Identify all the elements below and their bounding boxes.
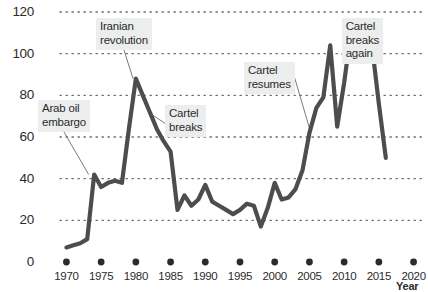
y-axis-tick-label: 100: [0, 47, 34, 61]
annotation-iranian-revolution: Iranian revolution: [96, 18, 152, 50]
annotation-cartel-breaks: Cartel breaks: [165, 105, 206, 137]
annotation-cartel-breaks-again: Cartel breaks again: [342, 18, 383, 64]
x-axis-title: Year: [396, 281, 418, 292]
annotation-cartel-resumes: Cartel resumes: [244, 62, 295, 94]
y-axis-tick-label: 60: [0, 130, 34, 144]
y-axis-tick-label: 0: [0, 255, 34, 269]
y-axis-tick-label: 40: [0, 172, 34, 186]
x-axis-tick-dots: [63, 259, 417, 266]
annotation-leader-lines: [64, 50, 364, 175]
y-axis-tick-label: 80: [0, 88, 34, 102]
y-axis-tick-label: 120: [0, 5, 34, 19]
oil-price-line: [66, 22, 385, 247]
y-axis-tick-label: 20: [0, 213, 34, 227]
annotation-arab-oil-embargo: Arab oil embargo: [38, 100, 90, 132]
